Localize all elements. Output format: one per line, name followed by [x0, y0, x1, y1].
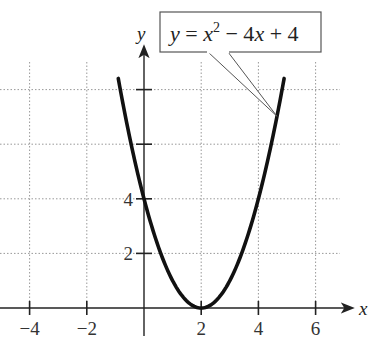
eq-exponent: 2 — [213, 20, 220, 35]
axes — [0, 47, 352, 336]
x-tick-label: 6 — [311, 318, 321, 339]
x-axis-label: x — [358, 298, 368, 319]
y-tick-label: 4 — [124, 189, 134, 210]
parabola-chart: −4−224624 y = x2 − 4x + 4 y x — [0, 0, 368, 346]
x-tick-label: −4 — [19, 318, 40, 339]
eq-x: x — [202, 21, 213, 46]
equation-callout: y = x2 − 4x + 4 — [160, 12, 321, 116]
callout-pointer — [208, 52, 277, 116]
y-axis-label: y — [135, 23, 146, 44]
eq-x2: x — [253, 21, 264, 46]
y-tick-label: 2 — [124, 243, 134, 264]
parabola-curve — [118, 78, 284, 308]
tick-labels: −4−224624 — [19, 189, 320, 339]
grid-lines — [0, 62, 340, 308]
x-tick-label: −2 — [77, 318, 97, 339]
eq-equals: = — [180, 21, 203, 46]
equation-label: y = x2 − 4x + 4 — [168, 20, 299, 46]
eq-rest: − 4 — [220, 21, 254, 46]
callout-pointer-mask — [207, 51, 229, 54]
x-tick-label: 4 — [254, 318, 264, 339]
eq-lhs: y — [168, 21, 180, 46]
x-tick-label: 2 — [196, 318, 206, 339]
eq-tail: + 4 — [264, 21, 298, 46]
